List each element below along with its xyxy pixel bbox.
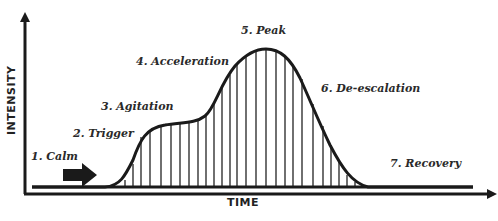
phase-label-trigger: 2. Trigger (73, 127, 134, 140)
phase-label-acceleration: 4. Acceleration (136, 55, 229, 68)
y-axis-label: INTENSITY (5, 65, 18, 135)
right-arrow-icon (63, 163, 97, 187)
x-axis-label: TIME (227, 196, 259, 209)
escalation-diagram: INTENSITY TIME 1. Calm 2. Trigger 3. Agi… (0, 0, 498, 221)
phase-label-recovery: 7. Recovery (390, 157, 461, 170)
hatch-lines (125, 50, 355, 186)
phase-label-calm: 1. Calm (31, 150, 78, 163)
phase-label-de-escalation: 6. De-escalation (321, 82, 420, 95)
phase-label-agitation: 3. Agitation (101, 100, 174, 113)
y-axis-arrow-icon (20, 12, 30, 22)
x-axis-arrow-icon (487, 189, 497, 199)
phase-label-peak: 5. Peak (241, 24, 286, 37)
